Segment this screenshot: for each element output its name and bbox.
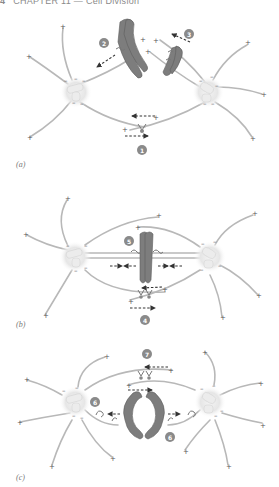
svg-text:+: +	[258, 380, 264, 388]
svg-text:–: –	[74, 75, 78, 83]
svg-text:3: 3	[187, 31, 191, 38]
microtubules-c	[20, 352, 262, 465]
svg-text:–: –	[82, 77, 86, 85]
svg-text:–: –	[62, 387, 66, 395]
svg-text:+: +	[26, 53, 32, 61]
svg-text:+: +	[145, 48, 151, 56]
header-separator: —	[74, 0, 83, 6]
svg-text:–: –	[74, 267, 78, 275]
svg-text:–: –	[213, 238, 217, 246]
svg-text:–: –	[211, 100, 215, 108]
svg-text:+: +	[226, 463, 232, 471]
svg-text:+: +	[24, 376, 30, 384]
panel-a: ––– –– ––– –– +++ +++ +++ ++	[0, 12, 279, 180]
callout-4: 4	[140, 315, 150, 325]
svg-text:+: +	[122, 126, 128, 134]
svg-text:+: +	[162, 286, 168, 294]
svg-text:+: +	[140, 36, 146, 44]
spindle-diagram-c: +++ ++ ++ +++ ++ –––– ––––	[0, 325, 279, 487]
svg-text:+: +	[261, 91, 267, 99]
svg-text:2: 2	[102, 40, 106, 47]
plus-end-labels-c: +++ ++ ++ +++ ++	[17, 349, 266, 471]
svg-text:+: +	[126, 382, 132, 390]
svg-text:–: –	[72, 99, 76, 107]
panel-label-c: (c)	[16, 473, 25, 482]
chromosome-right	[163, 46, 182, 76]
svg-text:+: +	[27, 134, 33, 142]
svg-text:–: –	[84, 242, 88, 250]
svg-text:6: 6	[168, 434, 172, 441]
svg-text:–: –	[201, 240, 205, 248]
spindle-diagram-a: ––– –– ––– –– +++ +++ +++ ++	[0, 12, 279, 180]
panel-c: +++ ++ ++ +++ ++ –––– ––––	[0, 325, 279, 487]
chapter-title: Cell Division	[86, 0, 139, 6]
svg-text:–: –	[200, 266, 204, 274]
svg-text:–: –	[64, 77, 68, 85]
svg-text:+: +	[168, 367, 174, 375]
chromatids-separating	[96, 392, 195, 439]
callout-1: 1	[137, 145, 147, 155]
svg-text:–: –	[200, 385, 204, 393]
svg-text:+: +	[250, 135, 256, 143]
svg-text:7: 7	[145, 351, 149, 358]
svg-text:+: +	[252, 210, 258, 218]
svg-text:–: –	[75, 384, 79, 392]
svg-text:–: –	[84, 264, 88, 272]
svg-text:–: –	[210, 73, 214, 81]
panel-label-a: (a)	[16, 160, 25, 169]
callout-3: 3	[184, 29, 194, 39]
svg-text:–: –	[80, 100, 84, 108]
svg-text:+: +	[153, 114, 159, 122]
svg-text:+: +	[135, 224, 141, 232]
svg-text:+: +	[23, 231, 29, 239]
panel-b: +++ ++ +++ ++ –––– –––– 5	[0, 180, 279, 325]
callout-5: 5	[124, 236, 134, 246]
svg-text:+: +	[49, 463, 55, 471]
svg-text:–: –	[220, 407, 224, 415]
svg-text:+: +	[245, 39, 251, 47]
svg-text:+: +	[65, 195, 71, 203]
callout-7: 7	[142, 349, 152, 359]
svg-text:–: –	[212, 382, 216, 390]
svg-text:–: –	[214, 412, 218, 420]
chromosome-left	[116, 19, 148, 78]
svg-text:–: –	[203, 100, 207, 108]
callout-2: 2	[99, 38, 109, 48]
callout-6-right: 6	[165, 432, 175, 442]
svg-text:1: 1	[140, 147, 144, 154]
svg-text:+: +	[256, 292, 262, 300]
motor-7	[138, 371, 152, 380]
svg-text:+: +	[156, 212, 162, 220]
svg-text:–: –	[199, 77, 203, 85]
svg-text:+: +	[183, 448, 189, 456]
centrosome-right	[192, 76, 224, 108]
svg-text:+: +	[128, 298, 134, 306]
svg-text:4: 4	[143, 317, 147, 324]
page-header: 4 CHAPTER 11 — Cell Division	[0, 0, 139, 8]
svg-text:+: +	[43, 312, 49, 320]
svg-text:+: +	[202, 349, 208, 357]
spindle-diagram-b: +++ ++ +++ ++ –––– –––– 5	[0, 180, 279, 325]
svg-text:+: +	[220, 314, 226, 322]
page-number: 4	[0, 0, 5, 6]
svg-text:–: –	[66, 242, 70, 250]
svg-text:5: 5	[127, 238, 131, 245]
chapter-label: CHAPTER 11	[13, 0, 71, 6]
svg-text:–: –	[215, 82, 219, 90]
svg-text:–: –	[72, 412, 76, 420]
svg-text:–: –	[80, 414, 84, 422]
svg-text:+: +	[60, 23, 66, 31]
callout-6-left: 6	[90, 397, 100, 407]
svg-text:+: +	[153, 37, 159, 45]
svg-text:6: 6	[93, 399, 97, 406]
svg-text:+: +	[110, 455, 116, 463]
svg-text:–: –	[218, 262, 222, 270]
svg-text:+: +	[17, 419, 23, 427]
svg-text:+: +	[260, 422, 266, 430]
svg-text:+: +	[104, 353, 110, 361]
